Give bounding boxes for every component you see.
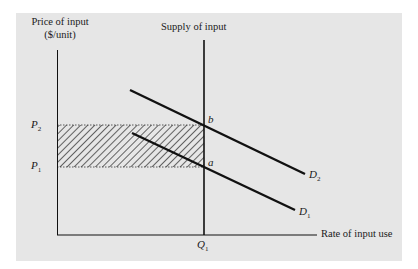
y-axis-label-line1: Price of input (30, 15, 90, 28)
supply-label: Supply of input (161, 21, 226, 32)
y-axis-label-line2: ($/unit) (30, 28, 90, 41)
y-axis-label: Price of input ($/unit) (30, 15, 90, 41)
point-label-a: a (208, 156, 214, 168)
point-label-b: b (208, 113, 214, 125)
hatched-area (57, 125, 204, 167)
price-label-p1: P1 (31, 159, 41, 174)
demand-label-d2: D2 (309, 168, 320, 183)
price-label-p2: P2 (31, 118, 41, 133)
quantity-label-q1: Q1 (197, 238, 208, 253)
x-axis-label: Rate of input use (321, 228, 392, 239)
demand-label-d1: D1 (299, 205, 310, 220)
demand-curve-d1 (132, 133, 295, 210)
